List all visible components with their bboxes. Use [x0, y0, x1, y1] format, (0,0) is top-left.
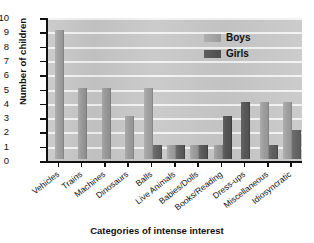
bar-girls: [153, 145, 162, 159]
y-tick-label-7: 7: [0, 56, 9, 66]
bar-boys: [78, 88, 87, 160]
bar-girls: [292, 130, 301, 159]
bar-boys: [260, 102, 269, 159]
bar-series-container: [48, 18, 302, 161]
bar-girls: [199, 145, 208, 159]
bar-boys: [144, 88, 153, 160]
bar-boys: [125, 116, 134, 159]
plot-area: [46, 18, 302, 163]
bar-boys: [167, 145, 176, 159]
bar-group: [164, 16, 187, 159]
legend-swatch-girls: [204, 50, 221, 58]
x-tick-mark: [81, 163, 83, 167]
x-tick-label: Vehicles: [30, 169, 61, 196]
bar-boys: [283, 102, 292, 159]
y-tick-label-5: 5: [0, 85, 9, 95]
bar-group: [257, 16, 280, 159]
y-tick-label-4: 4: [0, 99, 9, 109]
y-tick-label-10: 10: [0, 13, 9, 23]
bar-girls: [223, 116, 232, 159]
bar-girls: [176, 145, 185, 159]
y-tick-label-0: 0: [0, 156, 9, 166]
bar-boys: [55, 30, 64, 159]
legend-label-girls: Girls: [226, 48, 249, 59]
bar-group: [95, 16, 118, 159]
x-tick-mark: [174, 163, 176, 167]
bar-group: [71, 16, 94, 159]
legend-label-boys: Boys: [226, 32, 250, 43]
legend: Boys Girls: [204, 32, 250, 59]
bar-group: [141, 16, 164, 159]
y-tick-label-1: 1: [0, 142, 9, 152]
legend-swatch-boys: [204, 34, 221, 42]
bar-group: [281, 16, 304, 159]
y-tick-label-6: 6: [0, 70, 9, 80]
x-tick-mark: [244, 163, 246, 167]
y-tick-label-3: 3: [0, 113, 9, 123]
legend-item-boys: Boys: [204, 32, 250, 43]
y-axis-title: Number of children: [17, 0, 28, 132]
x-tick-mark: [197, 163, 199, 167]
x-axis-title: Categories of intense interest: [0, 225, 314, 236]
bar-girls: [241, 102, 250, 159]
y-tick-label-8: 8: [0, 42, 9, 52]
bar-chart: Number of children 109876543210 Vehicles…: [0, 0, 314, 243]
bar-boys: [190, 145, 199, 159]
y-tick-label-9: 9: [0, 27, 9, 37]
bar-group: [48, 16, 71, 159]
legend-item-girls: Girls: [204, 48, 250, 59]
bar-boys: [214, 145, 223, 159]
x-tick-mark: [127, 163, 129, 167]
bar-girls: [269, 145, 278, 159]
bar-group: [118, 16, 141, 159]
x-tick-mark: [58, 163, 60, 167]
x-tick-mark: [104, 163, 106, 167]
x-tick-mark: [290, 163, 292, 167]
y-tick-label-2: 2: [0, 127, 9, 137]
x-tick-mark: [267, 163, 269, 167]
bar-boys: [102, 88, 111, 160]
x-tick-mark: [151, 163, 153, 167]
x-tick-mark: [221, 163, 223, 167]
